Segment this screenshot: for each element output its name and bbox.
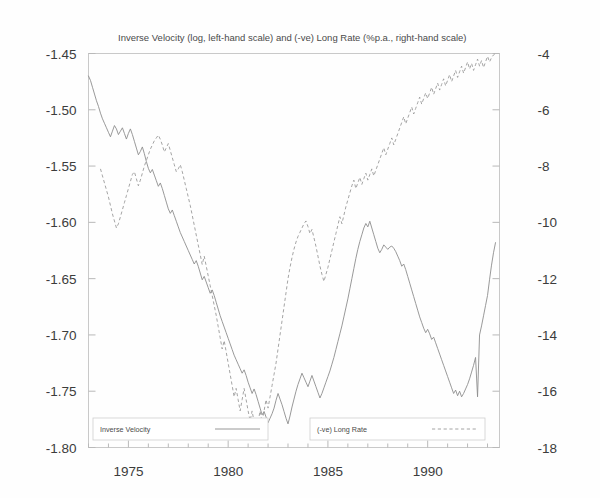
right-tick-label: -14 xyxy=(538,328,558,343)
left-tick-label: -1.50 xyxy=(46,103,77,118)
legend-label-inverse-velocity: Inverse Velocity xyxy=(100,425,151,434)
left-tick-label: -1.80 xyxy=(46,441,77,456)
left-tick-label: -1.60 xyxy=(46,215,77,230)
right-tick-label: -16 xyxy=(538,384,558,399)
left-tick-label: -1.45 xyxy=(46,47,77,62)
chart-title: Inverse Velocity (log, left-hand scale) … xyxy=(118,32,467,43)
left-tick-label: -1.55 xyxy=(46,159,77,174)
x-tick-label: 1980 xyxy=(213,464,243,479)
x-tick-label: 1975 xyxy=(113,464,143,479)
legend-long-rate: (-ve) Long Rate xyxy=(310,418,485,440)
x-tick-label: 1990 xyxy=(413,464,443,479)
x-tick-label: 1985 xyxy=(313,464,343,479)
left-tick-label: -1.70 xyxy=(46,328,77,343)
right-tick-label: -10 xyxy=(538,215,558,230)
legend-label-long-rate: (-ve) Long Rate xyxy=(317,425,367,434)
right-tick-label: -8 xyxy=(538,159,550,174)
chart-canvas: Inverse Velocity (log, left-hand scale) … xyxy=(0,0,600,498)
right-tick-label: -4 xyxy=(538,47,550,62)
left-tick-label: -1.65 xyxy=(46,272,77,287)
right-tick-label: -12 xyxy=(538,272,558,287)
right-tick-label: -18 xyxy=(538,441,558,456)
chart-background xyxy=(0,0,600,498)
left-tick-label: -1.75 xyxy=(46,384,77,399)
right-tick-label: -6 xyxy=(538,103,550,118)
inverse-velocity-long-rate-chart: Inverse Velocity (log, left-hand scale) … xyxy=(0,0,600,498)
legend-inverse-velocity: Inverse Velocity xyxy=(93,418,268,440)
